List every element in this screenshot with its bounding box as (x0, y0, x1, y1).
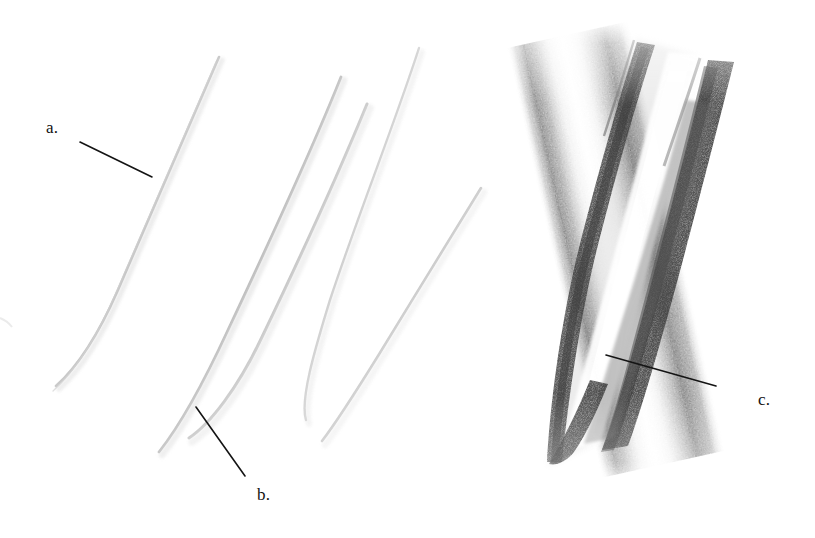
figure-label-a: a. (46, 119, 58, 136)
streak-figure-canvas (0, 0, 815, 538)
figure-root: a. b. c. (0, 0, 815, 538)
figure-label-c: c. (758, 391, 770, 408)
figure-label-b: b. (257, 486, 270, 503)
